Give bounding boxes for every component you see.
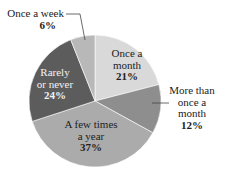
slice-name: Rarely: [40, 66, 70, 78]
slice-name: or never: [37, 78, 74, 90]
slice-name: month: [178, 107, 207, 119]
slice-name: month: [113, 59, 142, 71]
slice-name: once a: [178, 96, 207, 108]
slice-label: Once amonth21%: [112, 47, 143, 82]
slice-name: A few times: [64, 118, 117, 130]
slice-name: a year: [78, 130, 105, 142]
pie-chart: Once amonth21%More thanonce amonth12%A f…: [0, 0, 227, 178]
slice-name: More than: [169, 84, 215, 96]
slice-name: Once a: [112, 47, 143, 59]
slice-label: Once a week6%: [7, 7, 64, 31]
slice-percent: 6%: [40, 19, 57, 31]
slice-percent: 24%: [44, 89, 66, 101]
slice-percent: 12%: [181, 119, 203, 131]
slice-percent: 37%: [80, 141, 102, 153]
slice-name: Once a week: [7, 7, 64, 19]
slice-label: More thanonce amonth12%: [169, 84, 215, 131]
slice-percent: 21%: [116, 70, 138, 82]
